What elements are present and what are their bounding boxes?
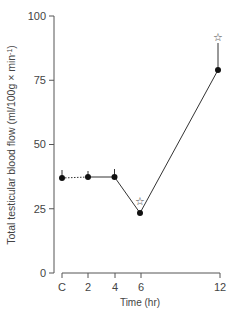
ytick-50: 50 [34,138,46,150]
significance-star-icon-6: ☆ [135,195,145,207]
point-4 [112,174,118,180]
xtick-C: C [58,281,66,293]
point-C [59,175,65,181]
xtick-12: 12 [214,281,226,293]
xtick-2: 2 [85,281,91,293]
xtick-6: 6 [138,281,144,293]
point-12 [215,67,221,73]
x-tick-labels: C 2 4 6 12 [58,281,226,293]
point-2 [85,174,91,180]
y-tick-labels: 100 75 50 25 0 [28,10,46,279]
segment-C-2-dotted [62,177,88,178]
data-points [59,67,221,216]
ytick-75: 75 [34,74,46,86]
ytick-0: 0 [40,267,46,279]
chart: 100 75 50 25 0 C 2 4 6 12 Time (hr) Tota… [0,0,238,316]
data-line [88,70,218,213]
xtick-4: 4 [112,281,118,293]
ytick-100: 100 [28,10,46,22]
significance-star-icon-12: ☆ [213,31,223,43]
error-bars [62,43,218,178]
y-ticks [49,16,54,273]
x-axis-label: Time (hr) [120,297,160,308]
x-ticks [62,273,220,278]
ytick-25: 25 [34,203,46,215]
y-axis-label: Total testicular blood flow (ml/100g × m… [5,45,17,245]
point-6 [137,210,143,216]
